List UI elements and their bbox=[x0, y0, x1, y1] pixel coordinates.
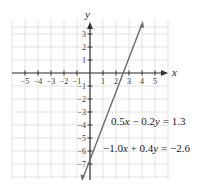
x-tick-label: 2 bbox=[114, 77, 118, 86]
y-tick-label: −5 bbox=[77, 134, 86, 143]
x-tick-label: 5 bbox=[153, 77, 157, 86]
x-tick-label: −5 bbox=[21, 77, 30, 86]
y-tick-label: 3 bbox=[82, 30, 86, 39]
y-tick-label: −3 bbox=[77, 108, 86, 117]
line-arrow-bottom-icon bbox=[81, 175, 86, 182]
y-tick-label: −7 bbox=[77, 160, 86, 169]
y-tick-label: −4 bbox=[77, 121, 86, 130]
x-tick-label: −2 bbox=[60, 77, 69, 86]
equation-label-2: −1.0x + 0.4y = −2.6 bbox=[103, 142, 190, 154]
y-axis bbox=[87, 22, 93, 180]
x-tick-label: 1 bbox=[101, 77, 105, 86]
x-tick-label: −4 bbox=[34, 77, 43, 86]
y-tick-label: −1 bbox=[77, 82, 86, 91]
x-axis-label: x bbox=[171, 66, 177, 78]
x-tick-label: 3 bbox=[127, 77, 131, 86]
y-tick-label: −2 bbox=[77, 95, 86, 104]
equation-label-1: 0.5x − 0.2y = 1.3 bbox=[111, 115, 186, 127]
y-axis-arrow-icon bbox=[87, 22, 93, 29]
x-tick-label: −3 bbox=[47, 77, 56, 86]
y-tick-label: −6 bbox=[77, 147, 86, 156]
x-tick-label: 4 bbox=[140, 77, 144, 86]
coordinate-plane: −5−4−3−2−112345 321−1−2−3−4−5−6−7 x y 0.… bbox=[0, 0, 209, 191]
y-tick-label: 2 bbox=[82, 43, 86, 52]
y-axis-label: y bbox=[84, 8, 90, 20]
x-axis-arrow-icon bbox=[161, 70, 168, 76]
y-tick-label: 1 bbox=[82, 56, 86, 65]
